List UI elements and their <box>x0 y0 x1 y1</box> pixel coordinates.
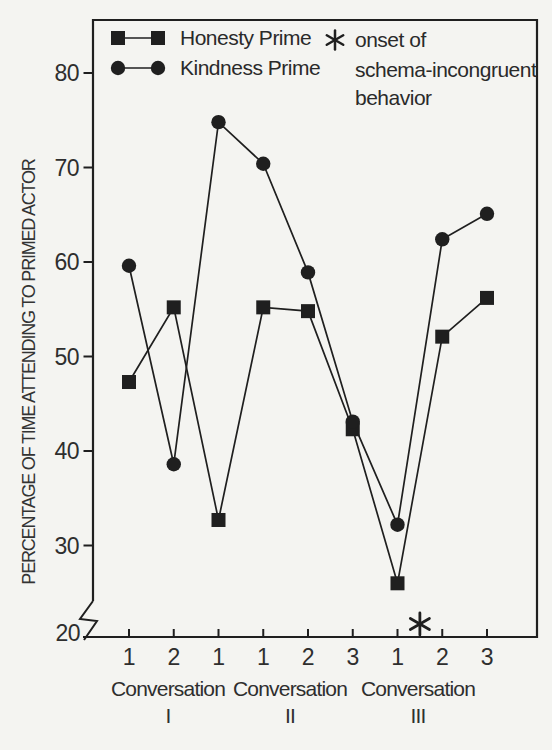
marker-circle <box>480 207 494 221</box>
plot-frame <box>83 20 537 637</box>
x-tick-label: 1 <box>257 644 269 670</box>
asterisk-note-line-1: onset of <box>355 29 426 51</box>
group-numeral-I: I <box>165 704 170 727</box>
legend-asterisk-icon <box>327 31 343 50</box>
marker-square <box>391 576 405 590</box>
marker-circle <box>211 115 225 129</box>
x-tick-label: 3 <box>347 644 359 670</box>
legend-label-honesty-prime: Honesty Prime <box>180 27 311 49</box>
line-chart: 80706050403020121123123ConversationIConv… <box>0 0 552 750</box>
legend-circle-marker-icon <box>111 61 125 75</box>
annotation-asterisk-icon <box>410 613 429 635</box>
asterisk-note-line-2: schema-incongruent <box>355 59 536 81</box>
legend-label-kindness-prime: Kindness Prime <box>180 57 320 79</box>
y-tick-label-60: 60 <box>54 249 79 275</box>
legend-circle-marker-icon <box>151 61 165 75</box>
x-tick-label: 2 <box>168 644 180 670</box>
group-label-conversation: Conversation <box>361 677 475 700</box>
series-line-honesty-prime <box>129 298 487 583</box>
x-tick-label: 1 <box>123 644 135 670</box>
marker-square <box>256 300 270 314</box>
marker-square <box>167 300 181 314</box>
y-tick-label-30: 30 <box>54 533 79 559</box>
x-tick-label: 1 <box>391 644 403 670</box>
y-tick-label-80: 80 <box>54 60 79 86</box>
figure-page: 80706050403020121123123ConversationIConv… <box>0 0 552 750</box>
group-label-conversation: Conversation <box>233 677 347 700</box>
group-numeral-II: II <box>285 704 295 727</box>
marker-circle <box>301 265 315 279</box>
marker-circle <box>167 457 181 471</box>
marker-circle <box>390 518 404 532</box>
marker-square <box>435 330 449 344</box>
series-line-kindness-prime <box>129 122 487 525</box>
marker-square <box>301 304 315 318</box>
y-axis-break <box>80 601 97 640</box>
x-tick-label: 2 <box>302 644 314 670</box>
group-numeral-III: III <box>410 704 425 727</box>
y-tick-label-70: 70 <box>54 155 79 181</box>
marker-square <box>480 291 494 305</box>
y-tick-label-20: 20 <box>55 620 80 646</box>
marker-circle <box>435 232 449 246</box>
legend-square-marker-icon <box>151 31 165 45</box>
y-tick-label-40: 40 <box>54 438 79 464</box>
y-axis-title: PERCENTAGE OF TIME ATTENDING TO PRIMED A… <box>19 159 40 584</box>
x-tick-label: 3 <box>481 644 493 670</box>
marker-square <box>122 375 136 389</box>
legend-square-marker-icon <box>111 31 125 45</box>
x-tick-label: 2 <box>436 644 448 670</box>
marker-square <box>212 513 226 527</box>
x-tick-label: 1 <box>212 644 224 670</box>
group-label-conversation: Conversation <box>111 677 225 700</box>
asterisk-note-line-3: behavior <box>355 87 432 109</box>
y-tick-label-50: 50 <box>54 344 79 370</box>
marker-circle <box>122 259 136 273</box>
marker-circle <box>256 157 270 171</box>
marker-circle <box>346 415 360 429</box>
